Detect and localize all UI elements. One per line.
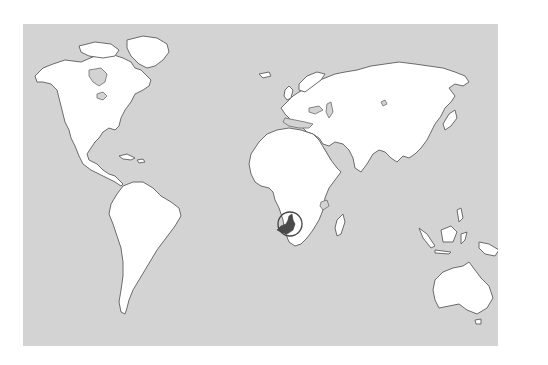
japan (443, 110, 457, 130)
java (435, 250, 451, 254)
iceland (259, 72, 271, 78)
tasmania (475, 319, 481, 324)
sumatra (419, 228, 435, 248)
philippines (457, 208, 463, 222)
cuba (119, 154, 135, 160)
sulawesi (461, 232, 467, 244)
arctic-islands (79, 42, 119, 58)
borneo (441, 226, 457, 242)
world-map (23, 24, 498, 346)
south-america (109, 182, 181, 314)
hispaniola (137, 159, 145, 163)
world-map-svg (23, 24, 498, 346)
australia (433, 262, 493, 314)
madagascar (335, 214, 345, 236)
greenland (127, 36, 169, 68)
new-guinea (479, 242, 498, 256)
